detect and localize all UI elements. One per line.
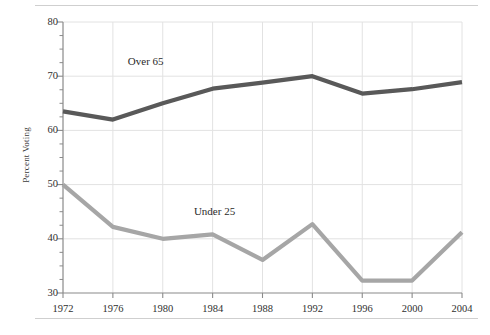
series-label-under-25: Under 25 bbox=[194, 206, 235, 217]
y-tick-label-50: 50 bbox=[30, 179, 58, 190]
x-tick-label-1996: 1996 bbox=[352, 304, 373, 315]
series-label-over-65: Over 65 bbox=[128, 56, 164, 67]
vertical-gridlines bbox=[63, 22, 462, 293]
x-tick-label-1984: 1984 bbox=[202, 304, 223, 315]
y-axis-tick-labels: 807060504030 bbox=[30, 0, 58, 335]
x-tick-label-1976: 1976 bbox=[102, 304, 123, 315]
y-tick-label-70: 70 bbox=[30, 71, 58, 82]
y-tick-label-40: 40 bbox=[30, 233, 58, 244]
y-tick-label-80: 80 bbox=[30, 17, 58, 28]
y-tick-label-60: 60 bbox=[30, 125, 58, 136]
x-tick-label-2000: 2000 bbox=[402, 304, 423, 315]
x-axis-tick-labels: 197219761980198419881992199620002004 bbox=[0, 298, 490, 318]
line-chart-plot bbox=[0, 0, 490, 335]
x-tick-label-1992: 1992 bbox=[302, 304, 323, 315]
y-tick-label-30: 30 bbox=[30, 288, 58, 299]
x-tick-label-2004: 2004 bbox=[452, 304, 473, 315]
chart-figure: Percent Voting 807060504030 197219761980… bbox=[0, 0, 490, 335]
x-tick-label-1972: 1972 bbox=[53, 304, 74, 315]
x-tick-label-1988: 1988 bbox=[252, 304, 273, 315]
x-tick-label-1980: 1980 bbox=[152, 304, 173, 315]
